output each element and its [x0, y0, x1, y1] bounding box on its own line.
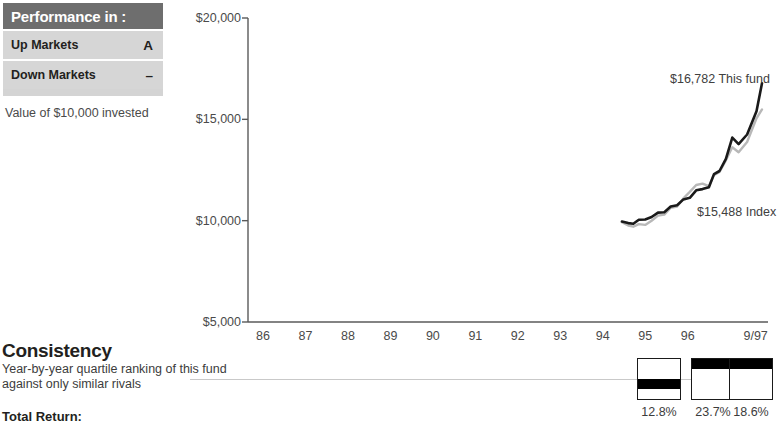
- this-fund-annotation: $16,782 This fund: [670, 72, 770, 86]
- quartile-median-line: [190, 379, 768, 380]
- x-axis-label: 96: [681, 329, 695, 343]
- growth-of-10000-chart: $5,000$10,000$15,000$20,000 868788899091…: [0, 0, 773, 355]
- index-annotation: $15,488 Index: [697, 205, 776, 219]
- consistency-title: Consistency: [2, 341, 302, 361]
- quartile-marker: [638, 379, 680, 389]
- x-axis-label: 90: [426, 329, 440, 343]
- quartile-marker: [730, 359, 772, 369]
- x-axis-label: 95: [638, 329, 652, 343]
- series-line-this-fund: [622, 83, 762, 224]
- y-axis-label: $20,000: [196, 11, 241, 25]
- consistency-subtitle: Year-by-year quartile ranking of this fu…: [2, 362, 232, 392]
- quartile-box: [637, 358, 681, 400]
- consistency-section: Consistency Year-by-year quartile rankin…: [2, 341, 302, 391]
- x-axis-label: 91: [468, 329, 482, 343]
- x-axis-label: 93: [553, 329, 567, 343]
- y-axis-tick-labels: $5,000$10,000$15,000$20,000: [185, 0, 241, 340]
- x-axis-tick-labels: 86878889909192939495969/97: [248, 329, 768, 349]
- y-axis-label: $10,000: [196, 214, 241, 228]
- total-return-value: 12.8%: [633, 405, 685, 419]
- quartile-box: [729, 358, 773, 400]
- x-axis-label: 9/97: [743, 329, 767, 343]
- y-axis-label: $15,000: [196, 112, 241, 126]
- y-axis-label: $5,000: [203, 315, 241, 329]
- x-axis-label: 89: [383, 329, 397, 343]
- chart-plot-area: [0, 0, 773, 355]
- x-axis-label: 88: [341, 329, 355, 343]
- x-axis-label: 92: [511, 329, 525, 343]
- total-return-label: Total Return:: [2, 409, 82, 424]
- total-return-value: 18.6%: [725, 405, 777, 419]
- quartile-marker: [692, 359, 734, 369]
- x-axis-label: 94: [596, 329, 610, 343]
